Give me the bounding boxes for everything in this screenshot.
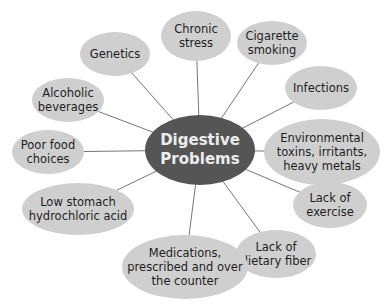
node-label: Genetics xyxy=(90,47,140,61)
node-label: Chronic stress xyxy=(174,22,218,50)
node-label: Lack of dietary fiber xyxy=(241,240,312,268)
center-node-digestive-problems: Digestive Problems xyxy=(145,115,255,185)
node-label: Poor food choices xyxy=(21,138,75,166)
node-poor-food-choices: Poor food choices xyxy=(12,130,84,174)
node-alcoholic-beverages: Alcoholic beverages xyxy=(32,78,104,122)
node-label: Alcoholic beverages xyxy=(38,86,98,114)
node-label: Lack of exercise xyxy=(306,191,353,219)
node-low-stomach-acid: Low stomach hydrochloric acid xyxy=(22,183,134,235)
node-infections: Infections xyxy=(285,66,357,110)
node-label: Cigarette smoking xyxy=(245,29,298,57)
node-label: Infections xyxy=(293,81,349,95)
node-medications: Medications, prescribed and over the cou… xyxy=(122,235,248,299)
node-label: Environmental toxins, irritants, heavy m… xyxy=(277,131,367,173)
node-label: Medications, prescribed and over the cou… xyxy=(127,246,242,288)
node-environmental-toxins: Environmental toxins, irritants, heavy m… xyxy=(264,119,380,185)
node-lack-of-exercise: Lack of exercise xyxy=(293,182,367,228)
center-node-label: Digestive Problems xyxy=(160,131,240,169)
node-label: Low stomach hydrochloric acid xyxy=(29,195,128,223)
mind-map-diagram: GeneticsChronic stressCigarette smokingI… xyxy=(0,0,391,304)
node-chronic-stress: Chronic stress xyxy=(161,11,231,61)
node-cigarette-smoking: Cigarette smoking xyxy=(237,21,307,65)
node-lack-of-dietary-fiber: Lack of dietary fiber xyxy=(236,230,316,278)
node-genetics: Genetics xyxy=(80,32,150,76)
